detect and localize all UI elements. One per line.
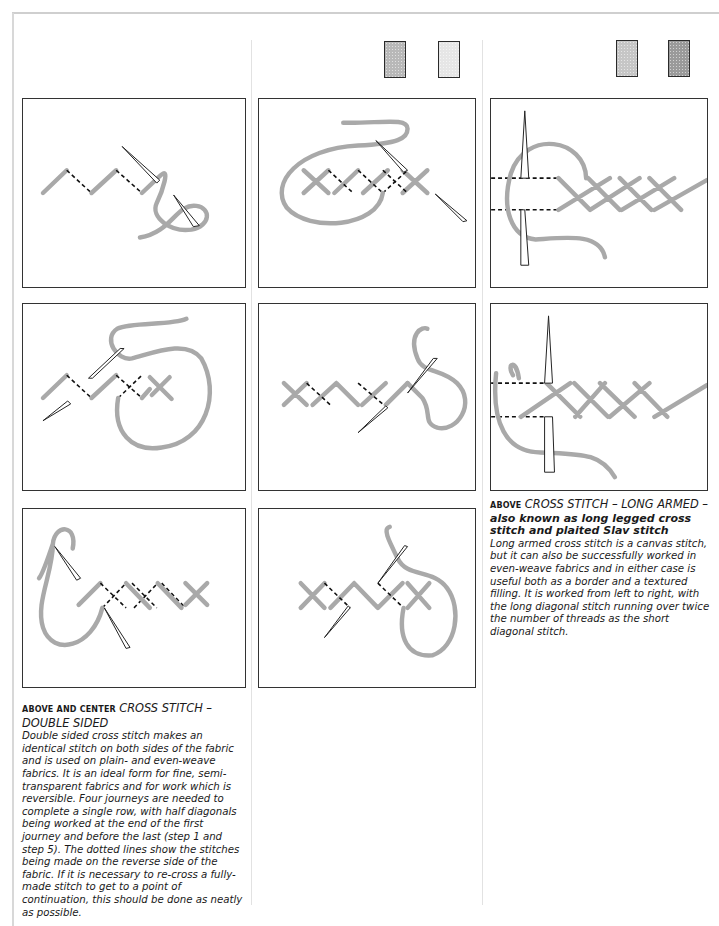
fabric-swatch-light (438, 41, 460, 78)
double-sided-caption: Above and center CROSS STITCH – DOUBLE S… (22, 702, 244, 919)
needle-icon (545, 316, 553, 383)
needle-icon (174, 195, 200, 227)
fabric-swatch-light (616, 40, 638, 77)
needle-icon (545, 417, 555, 472)
caption-body: Double sided cross stitch makes an ident… (22, 730, 244, 919)
long-armed-step-1-illustration (490, 98, 708, 288)
double-sided-step-2-illustration (22, 303, 246, 491)
needle-icon (122, 146, 160, 183)
caption-lead: Above (490, 501, 522, 510)
column-divider (251, 40, 252, 905)
needle-icon (376, 141, 408, 173)
caption-body: Long armed cross stitch is a canvas stit… (490, 538, 712, 639)
fabric-swatch-medium (384, 41, 406, 78)
double-sided-step-3-illustration (22, 508, 246, 688)
caption-lead: Above and center (22, 705, 116, 714)
long-armed-step-2-illustration (490, 303, 708, 491)
needle-icon (43, 401, 71, 421)
needle-icon (324, 606, 350, 638)
needle-icon (55, 547, 81, 581)
needle-icon (435, 194, 467, 222)
needle-icon (358, 406, 388, 433)
needle-icon (88, 349, 124, 379)
long-armed-caption: Above CROSS STITCH – LONG ARMED – also k… (490, 498, 712, 639)
double-sided-step-1-illustration (22, 98, 246, 288)
needle-icon (104, 608, 130, 649)
page-edge (12, 13, 14, 926)
fabric-swatch-dark (668, 40, 690, 77)
double-sided-step-5-illustration (258, 303, 476, 491)
double-sided-step-6-illustration (258, 508, 476, 688)
caption-title: CROSS STITCH – LONG ARMED – (525, 497, 708, 511)
column-divider (482, 40, 483, 905)
double-sided-step-4-illustration (258, 98, 476, 288)
caption-subtitle: also known as long legged cross stitch a… (490, 512, 691, 538)
top-rule (12, 12, 719, 14)
needle-icon (521, 111, 529, 178)
